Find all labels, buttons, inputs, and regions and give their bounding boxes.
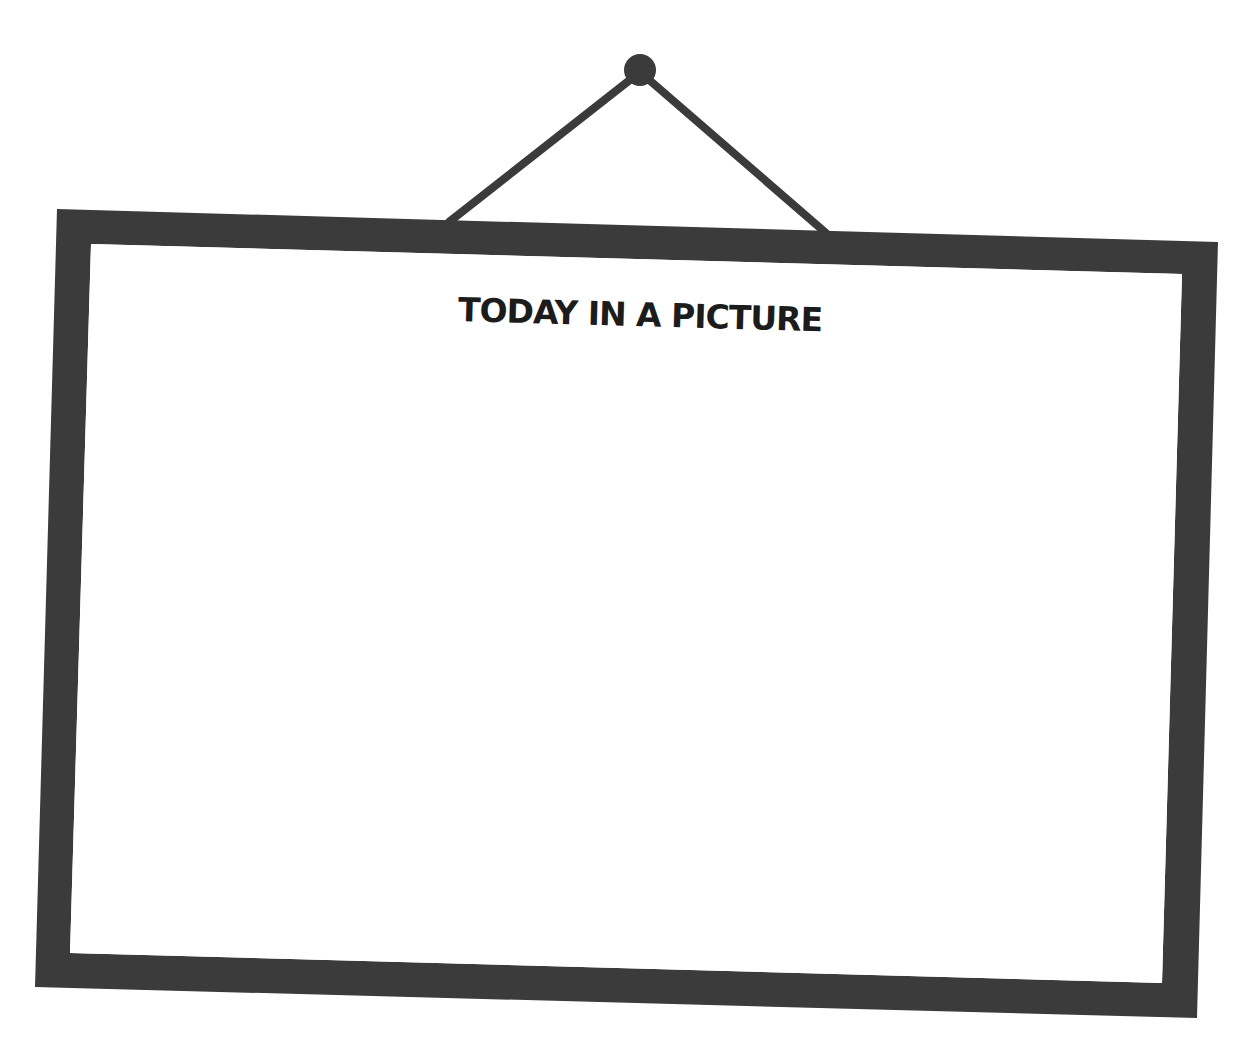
string-right (640, 72, 826, 233)
string-left (449, 72, 640, 222)
worksheet-page: TODAY IN A PICTURE (0, 0, 1259, 1059)
hanging-string (449, 72, 826, 233)
nail-icon (624, 54, 656, 86)
picture-frame-illustration (0, 0, 1259, 1059)
drawing-area[interactable] (70, 244, 1182, 983)
